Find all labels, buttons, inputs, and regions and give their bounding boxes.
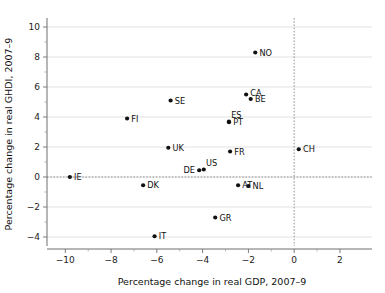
data-point-uk[interactable] [166,146,170,150]
y-tick-label-2: 2 [34,142,40,152]
data-point-label-no: NO [259,48,272,58]
data-point-label-se: SE [175,96,185,106]
data-point-de[interactable] [197,168,201,172]
x-tick-label-0: 0 [291,255,297,265]
data-point-label-gr: GR [219,213,231,223]
data-point-us[interactable] [202,167,206,171]
tick-marks-layer [43,27,340,253]
data-point-label-fr: FR [234,147,245,157]
y-axis-title: Percentage change in real GHDI, 2007–9 [3,38,14,231]
data-point-fi[interactable] [125,116,129,120]
data-point-ie[interactable] [68,175,72,179]
gridlines-layer [47,27,372,237]
x-tick-label--4: −4 [196,255,210,265]
data-point-no[interactable] [253,50,257,54]
y-tick-label--4: −4 [27,232,41,242]
x-axis-title: Percentage change in real GDP, 2007–9 [118,276,307,287]
data-point-label-dk: DK [147,180,159,190]
x-tick-label--8: −8 [104,255,118,265]
data-point-label-ie: IE [74,172,82,182]
data-points-layer [68,50,301,238]
data-point-it[interactable] [152,234,156,238]
data-point-ca[interactable] [244,92,248,96]
data-point-label-fi: FI [131,114,138,124]
data-point-label-it: IT [159,231,167,241]
chart-canvas: −4−20246810−10−8−6−4−202 NOCABESEFIESPTU… [0,0,385,293]
data-point-label-uk: UK [173,143,185,153]
data-point-at[interactable] [236,183,240,187]
data-point-label-us: US [206,158,217,168]
data-point-ch[interactable] [297,147,301,151]
data-point-label-pt: PT [233,117,244,127]
x-tick-label--6: −6 [150,255,164,265]
point-labels-layer: NOCABESEFIESPTUKFRCHUSDEIEDKATNLGRIT [74,48,315,242]
scatter-chart-figure: −4−20246810−10−8−6−4−202 NOCABESEFIESPTU… [0,0,385,293]
axes-layer [47,18,372,249]
data-point-label-nl: NL [253,181,264,191]
tick-labels-layer: −4−20246810−10−8−6−4−202 [27,22,343,265]
data-point-gr[interactable] [213,215,217,219]
x-tick-label-2: 2 [337,255,343,265]
data-point-label-ch: CH [303,144,315,154]
reference-lines-layer [47,18,372,246]
y-tick-label-6: 6 [34,82,40,92]
data-point-label-be: BE [255,94,266,104]
data-point-pt[interactable] [227,120,231,124]
y-tick-label-4: 4 [34,112,40,122]
y-tick-label--2: −2 [27,202,40,212]
data-point-label-de: DE [184,165,195,175]
data-point-fr[interactable] [228,149,232,153]
data-point-dk[interactable] [141,183,145,187]
x-tick-label--2: −2 [242,255,255,265]
x-tick-label--10: −10 [56,255,75,265]
data-point-se[interactable] [168,98,172,102]
data-point-be[interactable] [249,97,253,101]
y-tick-label-10: 10 [29,22,41,32]
y-tick-label-8: 8 [34,52,40,62]
y-tick-label-0: 0 [34,172,40,182]
